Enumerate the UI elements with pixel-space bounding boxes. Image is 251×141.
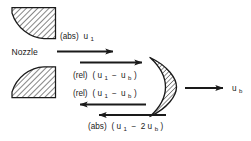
abs-outlet-var2: u [148, 122, 153, 131]
abs-inlet-var-subscript: 1 [91, 35, 95, 42]
abs-inlet-prefix: (abs) [60, 32, 79, 41]
rel-inlet-open-paren: ( [92, 71, 95, 80]
rel-inlet-var2: u [121, 71, 126, 80]
abs-outlet-coefficient: 2 [141, 122, 146, 131]
rel-inlet-close-paren: ) [134, 71, 137, 80]
abs-outlet-var1: u [117, 122, 122, 131]
absolute-inlet-velocity-label: (abs) u 1 [60, 32, 95, 42]
rel-outlet-var2-subscript: b [128, 92, 132, 99]
rel-outlet-open-paren: ( [92, 89, 95, 98]
rel-outlet-close-paren: ) [134, 89, 137, 98]
rel-inlet-prefix: (rel) [73, 71, 88, 80]
rel-outlet-var1-subscript: 1 [105, 92, 109, 99]
rel-inlet-var1: u [97, 71, 102, 80]
abs-outlet-var2-subscript: b [155, 125, 159, 132]
rel-outlet-prefix: (rel) [73, 89, 88, 98]
bucket-speed-var: u [232, 84, 237, 93]
abs-outlet-close-paren: ) [161, 122, 164, 131]
abs-inlet-var: u [84, 32, 89, 41]
rel-inlet-var2-subscript: b [128, 74, 132, 81]
abs-outlet-prefix: (abs) [88, 122, 107, 131]
svg-text:(abs) u 1: (abs) u 1 [60, 32, 95, 42]
rel-inlet-minus: − [112, 71, 117, 80]
rel-outlet-var1: u [97, 89, 102, 98]
velocity-diagram: Nozzle (abs) u 1 (rel) ( u 1 − u b ) [0, 0, 251, 141]
figure-canvas: Nozzle (abs) u 1 (rel) ( u 1 − u b ) [0, 0, 251, 141]
abs-outlet-minus: − [131, 122, 136, 131]
abs-outlet-var1-subscript: 1 [124, 125, 128, 132]
rel-outlet-minus: − [112, 89, 117, 98]
rel-inlet-var1-subscript: 1 [105, 74, 109, 81]
nozzle-label: Nozzle [12, 47, 38, 57]
abs-outlet-open-paren: ( [112, 122, 115, 131]
rel-outlet-var2: u [121, 89, 126, 98]
